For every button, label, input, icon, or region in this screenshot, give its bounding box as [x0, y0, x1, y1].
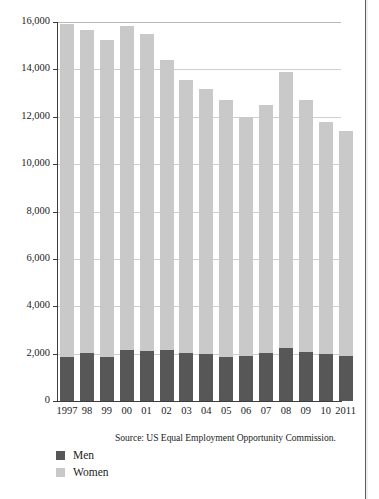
- bar-segment-women-2011[interactable]: [339, 131, 353, 356]
- bar-segment-women-1999[interactable]: [100, 40, 114, 357]
- bar-segment-men-2005[interactable]: [219, 357, 233, 401]
- bar-segment-women-2010[interactable]: [319, 122, 333, 354]
- bar-segment-men-2006[interactable]: [239, 356, 253, 401]
- bar-segment-women-2002[interactable]: [160, 60, 174, 350]
- legend-label-women: Women: [73, 467, 108, 479]
- bar-group-2006[interactable]: [239, 22, 253, 401]
- bar-group-2011[interactable]: [339, 22, 353, 401]
- bar-group-2008[interactable]: [279, 22, 293, 401]
- bar-segment-men-2001[interactable]: [140, 351, 154, 401]
- bar-segment-women-2008[interactable]: [279, 72, 293, 347]
- bar-group-1998[interactable]: [80, 22, 94, 401]
- bar-segment-women-2006[interactable]: [239, 117, 253, 356]
- y-tick-label-6000: 6,000: [0, 252, 50, 263]
- y-tick-label-12000: 12,000: [0, 110, 50, 121]
- bar-segment-women-2004[interactable]: [199, 89, 213, 354]
- bar-segment-women-2007[interactable]: [259, 105, 273, 353]
- legend-item-women: Women: [56, 464, 108, 481]
- figure-page: 02,0004,0006,0008,00010,00012,00014,0001…: [0, 0, 379, 499]
- bar-segment-men-2004[interactable]: [199, 354, 213, 401]
- y-tick-label-0: 0: [0, 394, 50, 405]
- bar-group-1999[interactable]: [100, 22, 114, 401]
- bar-segment-men-1998[interactable]: [80, 353, 94, 401]
- x-axis-line: [57, 401, 342, 402]
- bar-group-2003[interactable]: [179, 22, 193, 401]
- bar-segment-women-1998[interactable]: [80, 30, 94, 353]
- legend-label-men: Men: [73, 450, 94, 462]
- bar-segment-women-2009[interactable]: [299, 100, 313, 352]
- bar-group-2005[interactable]: [219, 22, 233, 401]
- y-tick-label-8000: 8,000: [0, 205, 50, 216]
- chart-legend: Men Women: [56, 447, 108, 481]
- bar-segment-women-2005[interactable]: [219, 100, 233, 357]
- bar-group-2000[interactable]: [120, 22, 134, 401]
- bar-group-2004[interactable]: [199, 22, 213, 401]
- bar-group-1997[interactable]: [60, 22, 74, 401]
- bar-segment-men-2007[interactable]: [259, 353, 273, 401]
- bar-segment-men-2003[interactable]: [179, 353, 193, 401]
- bar-group-2007[interactable]: [259, 22, 273, 401]
- stacked-bar-chart: 02,0004,0006,0008,00010,00012,00014,0001…: [0, 0, 365, 420]
- bar-group-2001[interactable]: [140, 22, 154, 401]
- bar-group-2010[interactable]: [319, 22, 333, 401]
- bar-segment-women-2000[interactable]: [120, 26, 134, 351]
- bar-segment-women-2003[interactable]: [179, 80, 193, 354]
- legend-swatch-women: [56, 468, 65, 477]
- bar-group-2009[interactable]: [299, 22, 313, 401]
- source-note: Source: US Equal Employment Opportunity …: [115, 432, 336, 443]
- bar-segment-men-1997[interactable]: [60, 357, 74, 401]
- bar-segment-men-2010[interactable]: [319, 354, 333, 401]
- bar-segment-women-1997[interactable]: [60, 24, 74, 357]
- bar-segment-men-1999[interactable]: [100, 357, 114, 401]
- x-tick-label-2011: 2011: [331, 405, 361, 416]
- bar-segment-men-2011[interactable]: [339, 356, 353, 401]
- bar-group-2002[interactable]: [160, 22, 174, 401]
- y-tick-label-4000: 4,000: [0, 299, 50, 310]
- y-tick-label-10000: 10,000: [0, 157, 50, 168]
- bar-segment-men-2009[interactable]: [299, 352, 313, 401]
- bar-segment-men-2008[interactable]: [279, 348, 293, 401]
- legend-swatch-men: [56, 451, 65, 460]
- bar-segment-men-2002[interactable]: [160, 350, 174, 401]
- y-tick-label-2000: 2,000: [0, 347, 50, 358]
- legend-item-men: Men: [56, 447, 108, 464]
- plot-area: [57, 22, 341, 401]
- y-tick-label-14000: 14,000: [0, 62, 50, 73]
- y-tick-label-16000: 16,000: [0, 15, 50, 26]
- bar-segment-women-2001[interactable]: [140, 34, 154, 351]
- bar-segment-men-2000[interactable]: [120, 350, 134, 401]
- page-edge-rule-shadow: [366, 0, 368, 499]
